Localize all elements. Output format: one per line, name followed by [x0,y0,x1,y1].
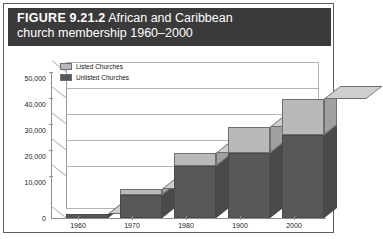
y-tick-label-30000: 30,000 [25,127,46,134]
gridline-40000 [66,88,318,89]
bar-1980-listed [174,153,216,166]
bar-1900-unlisted [228,153,270,218]
figure-title-text-2: church membership 1960–2000 [17,26,193,40]
figure-title-banner: FIGURE 9.21.2 African and Caribbean chur… [8,8,331,46]
y-tick-label-40000: 40,000 [25,101,46,108]
x-tick-mark-1980 [186,216,187,220]
bar-2000-unlisted [282,135,324,218]
x-axis-line [51,218,326,219]
y-tick-label-0: 0 [42,215,46,222]
x-tick-label-1960: 1960 [70,222,86,229]
figure-title-text-1: African and Caribbean [108,11,232,25]
bar-1970 [120,189,162,218]
legend-label-listed: Listed Churches [76,62,123,71]
x-tick-mark-1900 [240,216,241,220]
depth-line-20000 [52,138,68,150]
y-tick-mark-20000 [49,150,53,151]
legend-label-unlisted: Unlisted Churches [76,73,129,82]
figure-title-line-1: FIGURE 9.21.2 African and Caribbean [17,11,323,26]
y-tick-mark-50000 [49,72,53,73]
y-tick-label-50000: 50,000 [25,75,46,82]
bar-1970-listed [120,189,162,195]
y-axis-labels: 50,000 40,000 30,000 20,000 10,000 0 [8,48,46,233]
legend-item-listed: Listed Churches [60,62,129,71]
y-axis-line [51,72,52,218]
bar-2000-top [324,86,383,99]
figure-label: FIGURE [17,11,66,25]
x-tick-mark-1960 [78,216,79,220]
bar-1980 [174,153,216,218]
chart-legend: Listed Churches Unlisted Churches [60,62,129,84]
x-tick-label-2000: 2000 [286,222,302,229]
bar-1970-unlisted [120,195,162,218]
depth-line-40000 [52,86,68,98]
bar-2000-listed [282,99,324,135]
x-tick-mark-1970 [132,216,133,220]
bar-2000 [282,99,324,218]
bar-1900 [228,127,270,218]
y-tick-mark-40000 [49,98,53,99]
legend-swatch-listed-icon [60,63,72,70]
gridline-30000 [66,114,318,115]
bar-1980-unlisted [174,166,216,218]
legend-item-unlisted: Unlisted Churches [60,73,129,82]
x-tick-label-1970: 1970 [124,222,140,229]
depth-line-10000 [52,164,68,176]
chart: 50,000 40,000 30,000 20,000 10,000 0 [8,48,331,233]
x-tick-label-1980: 1980 [178,222,194,229]
figure-title-line-2: church membership 1960–2000 [17,26,323,41]
figure-frame: FIGURE 9.21.2 African and Caribbean chur… [3,3,334,233]
y-tick-label-20000: 20,000 [25,153,46,160]
y-tick-label-10000: 10,000 [25,179,46,186]
y-tick-mark-10000 [49,176,53,177]
figure-number: 9.21.2 [70,11,106,25]
depth-line-30000 [52,112,68,124]
x-tick-mark-2000 [294,216,295,220]
bar-1900-listed [228,127,270,153]
bar-2000-side-unlisted [324,125,337,218]
x-tick-label-1900: 1900 [232,222,248,229]
y-tick-mark-30000 [49,124,53,125]
legend-swatch-unlisted-icon [60,74,72,81]
